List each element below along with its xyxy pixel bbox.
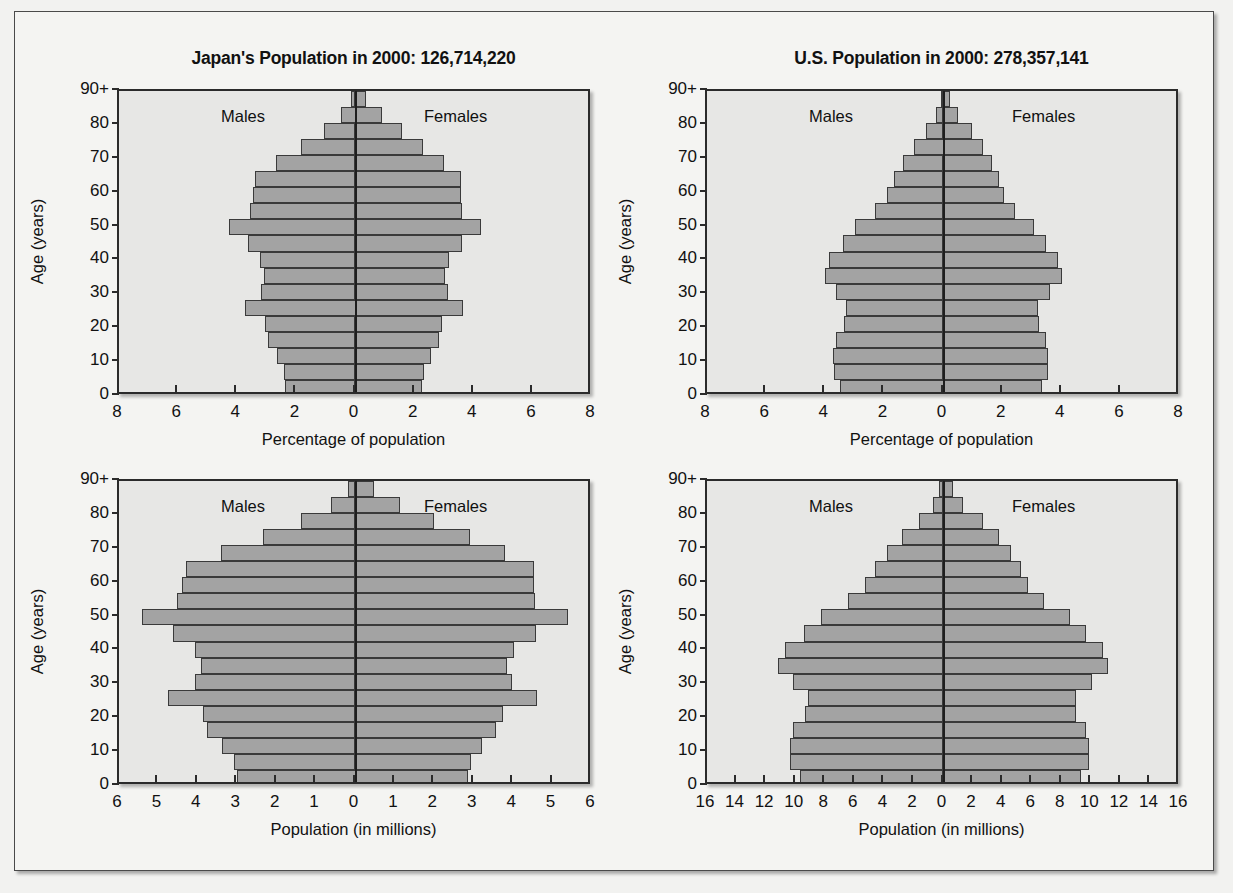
bar-male-2 — [833, 348, 943, 364]
y-tick-label-9: 90+ — [625, 469, 697, 489]
bar-male-7 — [825, 268, 944, 284]
chart-panel-japan-percent: Japan's Population in 2000: 126,714,220M… — [17, 39, 650, 464]
bar-male-7 — [201, 658, 356, 674]
bar-male-4 — [844, 316, 943, 332]
x-tick-label-16: 16 — [1169, 792, 1188, 812]
x-tick-label-14: 12 — [1109, 792, 1128, 812]
x-tick-label-6: 4 — [467, 402, 476, 422]
x-tick-label-4: 8 — [819, 792, 828, 812]
bar-female-7 — [944, 658, 1109, 674]
bar-male-15 — [902, 529, 943, 545]
bar-male-7 — [264, 268, 356, 284]
y-tick-mark-3 — [112, 291, 119, 293]
x-tick-mark-13 — [1088, 775, 1090, 783]
x-tick-label-9: 2 — [966, 792, 975, 812]
y-tick-label-3: 30 — [37, 672, 109, 692]
bar-female-15 — [944, 529, 1000, 545]
bar-female-2 — [944, 348, 1049, 364]
bar-male-17 — [341, 107, 356, 123]
bar-female-6 — [944, 284, 1051, 300]
bar-female-5 — [356, 690, 538, 706]
x-axis-title: Population (in millions) — [117, 820, 590, 839]
x-tick-label-6: 4 — [878, 792, 887, 812]
bar-male-1 — [234, 754, 355, 770]
x-tick-mark-8 — [431, 775, 433, 783]
bar-female-1 — [356, 364, 424, 380]
bar-female-12 — [356, 577, 534, 593]
bar-male-11 — [250, 203, 356, 219]
x-tick-mark-3 — [293, 385, 295, 393]
bar-male-10 — [821, 609, 944, 625]
x-tick-label-12: 8 — [1055, 792, 1064, 812]
x-tick-label-6: 0 — [349, 792, 358, 812]
bar-female-10 — [356, 609, 569, 625]
y-tick-mark-3 — [700, 291, 707, 293]
x-tick-mark-2 — [822, 385, 824, 393]
bar-female-3 — [356, 332, 439, 348]
y-tick-mark-1 — [112, 749, 119, 751]
bar-female-9 — [944, 625, 1086, 641]
x-tick-label-1: 14 — [725, 792, 744, 812]
x-tick-mark-4 — [941, 385, 943, 393]
bar-female-0 — [944, 380, 1043, 394]
y-tick-mark-1 — [700, 359, 707, 361]
y-tick-mark-5 — [700, 614, 707, 616]
bar-male-5 — [846, 300, 944, 316]
y-tick-mark-9 — [700, 478, 707, 480]
y-tick-label-6: 60 — [625, 181, 697, 201]
x-tick-mark-11 — [550, 775, 552, 783]
bar-male-5 — [808, 690, 944, 706]
plot-area-japan-millions: MalesFemales — [117, 479, 590, 784]
bar-male-4 — [805, 706, 943, 722]
bar-female-16 — [356, 123, 403, 139]
y-tick-label-7: 70 — [625, 537, 697, 557]
x-tick-label-10: 4 — [996, 792, 1005, 812]
y-tick-mark-9 — [112, 88, 119, 90]
x-tick-mark-4 — [822, 775, 824, 783]
x-tick-mark-3 — [881, 385, 883, 393]
y-tick-mark-0 — [700, 783, 707, 785]
chart-panel-japan-millions: MalesFemales0102030405060708090+Age (yea… — [17, 429, 650, 854]
bar-female-15 — [356, 139, 424, 155]
y-tick-label-5: 50 — [37, 215, 109, 235]
y-tick-label-4: 40 — [37, 638, 109, 658]
y-tick-mark-7 — [700, 546, 707, 548]
x-tick-label-8: 2 — [428, 792, 437, 812]
bar-female-4 — [356, 706, 503, 722]
bar-female-14 — [944, 155, 993, 171]
x-tick-mark-6 — [471, 385, 473, 393]
bar-female-14 — [356, 155, 445, 171]
bar-male-16 — [919, 513, 944, 529]
bar-female-0 — [356, 770, 468, 784]
x-tick-mark-7 — [911, 775, 913, 783]
bar-female-14 — [944, 545, 1012, 561]
x-tick-label-5: 1 — [309, 792, 318, 812]
y-tick-mark-8 — [700, 122, 707, 124]
bar-female-15 — [356, 529, 471, 545]
y-tick-label-8: 80 — [37, 113, 109, 133]
plot-area-us-percent: MalesFemales — [705, 89, 1178, 394]
bar-male-11 — [848, 593, 943, 609]
plot-wrapper-us-percent: MalesFemales — [705, 89, 1178, 394]
bar-female-8 — [356, 252, 450, 268]
bar-female-17 — [356, 107, 382, 123]
bar-female-2 — [356, 738, 483, 754]
y-tick-mark-2 — [112, 715, 119, 717]
bar-male-1 — [790, 754, 943, 770]
y-tick-mark-9 — [700, 88, 707, 90]
bar-male-6 — [195, 674, 355, 690]
y-tick-label-0: 0 — [37, 774, 109, 794]
y-axis-title: Age (years) — [616, 479, 635, 784]
bar-female-17 — [944, 497, 964, 513]
bar-male-1 — [284, 364, 356, 380]
bar-male-14 — [221, 545, 356, 561]
y-tick-mark-7 — [112, 156, 119, 158]
bar-male-11 — [177, 593, 356, 609]
x-tick-mark-10 — [510, 775, 512, 783]
bar-female-8 — [356, 642, 514, 658]
bar-female-4 — [356, 316, 443, 332]
y-tick-label-2: 20 — [625, 316, 697, 336]
bar-female-5 — [944, 690, 1076, 706]
bar-female-6 — [356, 284, 449, 300]
x-tick-label-7: 6 — [526, 402, 535, 422]
